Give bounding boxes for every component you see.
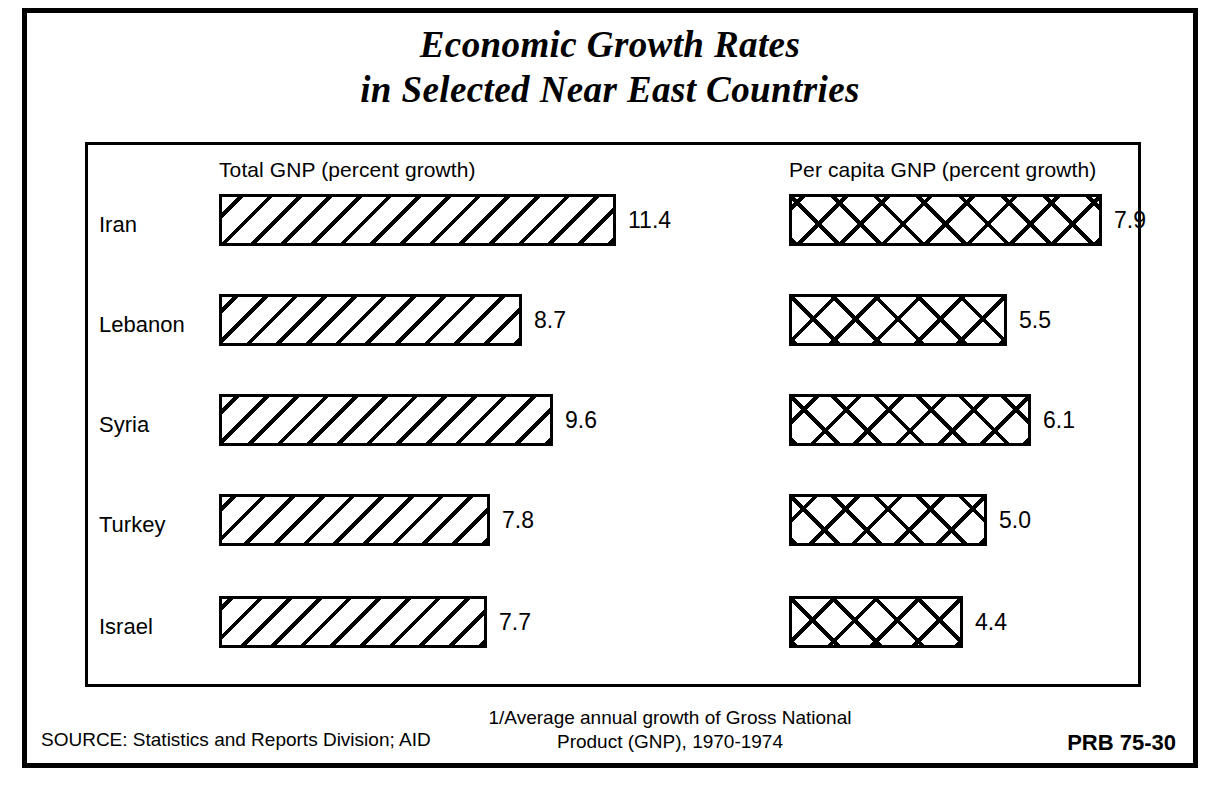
bar-total-gnp bbox=[219, 194, 616, 246]
bar-per-capita-gnp bbox=[789, 494, 987, 546]
footnote-line-1: 1/Average annual growth of Gross Nationa… bbox=[460, 706, 880, 730]
page-title: Economic Growth Rates in Selected Near E… bbox=[40, 22, 1180, 112]
bar-total-gnp bbox=[219, 294, 522, 346]
bar-value-label: 6.1 bbox=[1043, 407, 1075, 434]
footer-footnote: 1/Average annual growth of Gross Nationa… bbox=[460, 706, 880, 754]
table-row: Syria9.66.1 bbox=[0, 390, 1221, 470]
bar-per-capita-gnp bbox=[789, 596, 963, 648]
bar-value-label: 5.0 bbox=[999, 507, 1031, 534]
bar-value-label: 7.8 bbox=[502, 507, 534, 534]
bar-value-label: 7.9 bbox=[1114, 207, 1146, 234]
column-header-per-capita-gnp: Per capita GNP (percent growth) bbox=[789, 158, 1096, 182]
row-label-israel: Israel bbox=[99, 614, 153, 640]
figure-page: Economic Growth Rates in Selected Near E… bbox=[0, 0, 1221, 806]
row-label-turkey: Turkey bbox=[99, 512, 165, 538]
footer-source: SOURCE: Statistics and Reports Division;… bbox=[41, 729, 431, 751]
table-row: Iran11.47.9 bbox=[0, 190, 1221, 270]
column-header-total-gnp: Total GNP (percent growth) bbox=[219, 158, 476, 182]
bar-per-capita-gnp bbox=[789, 194, 1102, 246]
table-row: Turkey7.85.0 bbox=[0, 490, 1221, 570]
bar-value-label: 8.7 bbox=[534, 307, 566, 334]
table-row: Israel7.74.4 bbox=[0, 592, 1221, 672]
bar-per-capita-gnp bbox=[789, 394, 1031, 446]
bar-value-label: 7.7 bbox=[499, 609, 531, 636]
bar-value-label: 5.5 bbox=[1019, 307, 1051, 334]
bar-total-gnp bbox=[219, 394, 553, 446]
bar-value-label: 4.4 bbox=[975, 609, 1007, 636]
title-line-2: in Selected Near East Countries bbox=[40, 67, 1180, 112]
row-label-iran: Iran bbox=[99, 212, 137, 238]
row-label-syria: Syria bbox=[99, 412, 149, 438]
title-line-1: Economic Growth Rates bbox=[40, 22, 1180, 67]
publication-code: PRB 75-30 bbox=[1067, 730, 1176, 756]
bar-value-label: 11.4 bbox=[628, 207, 671, 234]
footnote-line-2: Product (GNP), 1970-1974 bbox=[460, 730, 880, 754]
bar-total-gnp bbox=[219, 596, 487, 648]
table-row: Lebanon8.75.5 bbox=[0, 290, 1221, 370]
row-label-lebanon: Lebanon bbox=[99, 312, 185, 338]
bar-value-label: 9.6 bbox=[565, 407, 597, 434]
bar-total-gnp bbox=[219, 494, 490, 546]
bar-per-capita-gnp bbox=[789, 294, 1007, 346]
